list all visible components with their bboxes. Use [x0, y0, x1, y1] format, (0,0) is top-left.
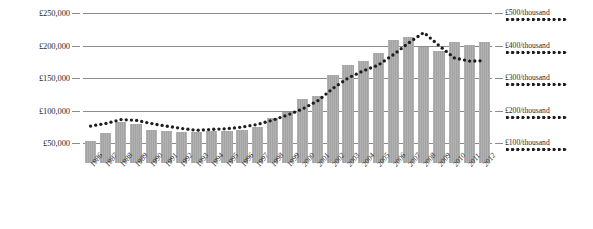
line-dot	[328, 89, 331, 92]
line-dot	[145, 121, 148, 124]
legend-dotted-swatch	[506, 116, 568, 119]
line-dot	[453, 56, 456, 59]
line-dot	[341, 80, 344, 83]
line-dot	[441, 46, 444, 49]
y-axis-right-tick-label: £500/thousand	[505, 8, 550, 17]
line-dot	[104, 122, 107, 125]
line-dot	[421, 32, 424, 35]
line-dot	[263, 121, 266, 124]
axis-tick-right	[495, 78, 503, 79]
line-dot	[176, 126, 179, 129]
line-dot	[425, 33, 428, 36]
y-axis-left-tick-label: £50,000	[10, 138, 70, 148]
line-dot	[478, 59, 481, 62]
axis-tick-left	[72, 78, 80, 79]
line-dot	[378, 62, 381, 65]
line-dot	[191, 128, 194, 131]
line-dot	[248, 124, 251, 127]
line-dot	[222, 127, 225, 130]
line-dot	[238, 126, 241, 129]
line-dot	[416, 35, 419, 38]
line-dot	[374, 64, 377, 67]
axis-tick-left	[72, 111, 80, 112]
line-dot	[395, 50, 398, 53]
axis-tick-left	[72, 13, 80, 14]
axis-tick-left	[72, 46, 80, 47]
y-axis-left-tick-label: £200,000	[10, 41, 70, 51]
line-dot	[359, 70, 362, 73]
line-dot	[312, 101, 315, 104]
line-dot	[303, 106, 306, 109]
line-dot	[114, 119, 117, 122]
line-dot	[273, 118, 276, 121]
line-dot	[463, 58, 466, 61]
line-dot	[130, 118, 133, 121]
line-dot	[243, 125, 246, 128]
line-dot	[391, 53, 394, 56]
line-dot	[307, 104, 310, 107]
axis-tick-right	[495, 143, 503, 144]
line-dot	[288, 112, 291, 115]
line-dot	[140, 120, 143, 123]
line-dot	[369, 66, 372, 69]
legend-dotted-swatch	[506, 83, 568, 86]
line-dot	[404, 44, 407, 47]
line-dot	[445, 50, 448, 53]
line-dot	[324, 92, 327, 95]
line-dot	[160, 124, 163, 127]
y-axis-right-tick-label: £300/thousand	[505, 73, 550, 82]
y-axis-left-tick-label: £100,000	[10, 106, 70, 116]
line-dot	[437, 43, 440, 46]
line-dot	[119, 118, 122, 121]
line-dot	[202, 128, 205, 131]
line-dot	[355, 73, 358, 76]
y-axis-right-tick-label: £200/thousand	[505, 106, 550, 115]
line-dot	[458, 57, 461, 60]
line-dot	[181, 127, 184, 130]
chart-container: £250,000£200,000£150,000£100,000£50,000 …	[0, 0, 593, 229]
line-dot	[408, 41, 411, 44]
y-axis-left-tick-label: £250,000	[10, 8, 70, 18]
line-dot	[298, 109, 301, 112]
line-dot	[433, 40, 436, 43]
line-dot	[383, 59, 386, 62]
line-dot	[332, 86, 335, 89]
line-dot	[228, 127, 231, 130]
line-dot	[125, 118, 128, 121]
line-dot	[155, 123, 158, 126]
line-dot	[364, 68, 367, 71]
line-dot	[109, 121, 112, 124]
line-dot	[283, 114, 286, 117]
line-dot	[135, 119, 138, 122]
x-axis-labels: 1986198719881989199019911992199319941995…	[83, 163, 492, 229]
line-dot	[217, 127, 220, 130]
line-dot	[350, 75, 353, 78]
line-dot	[320, 96, 323, 99]
line-dot	[268, 119, 271, 122]
line-dot	[468, 59, 471, 62]
dotted-line-series	[83, 13, 492, 143]
line-dot	[89, 124, 92, 127]
line-dot	[293, 111, 296, 114]
line-dot	[337, 83, 340, 86]
line-dot	[253, 123, 256, 126]
line-dot	[207, 128, 210, 131]
y-axis-right-tick-label: £100/thousand	[505, 138, 550, 147]
line-dot	[316, 99, 319, 102]
line-dot	[429, 36, 432, 39]
legend-dotted-swatch	[506, 18, 568, 21]
line-dot	[278, 116, 281, 119]
line-dot	[99, 123, 102, 126]
legend-dotted-swatch	[506, 148, 568, 151]
line-dot	[166, 125, 169, 128]
line-dot	[449, 53, 452, 56]
line-dot	[150, 122, 153, 125]
legend-dotted-swatch	[506, 51, 568, 54]
line-dot	[233, 126, 236, 129]
axis-tick-right	[495, 13, 503, 14]
line-dot	[345, 77, 348, 80]
axis-tick-right	[495, 46, 503, 47]
axis-tick-right	[495, 111, 503, 112]
line-dot	[400, 47, 403, 50]
line-dot	[186, 128, 189, 131]
